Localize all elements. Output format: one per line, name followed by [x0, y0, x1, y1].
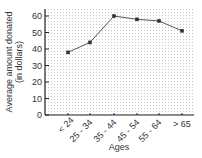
y-tick-label: 20: [32, 77, 42, 87]
y-tick-label: 10: [32, 94, 42, 104]
x-tick-label: > 65: [173, 119, 191, 129]
svg-text:Average amount donated: Average amount donated: [4, 12, 14, 113]
y-tick-label: 30: [32, 61, 42, 71]
x-tick-label: 45 - 54: [115, 117, 142, 144]
data-point: [157, 19, 161, 23]
svg-text:(in dollars): (in dollars): [14, 41, 24, 83]
line-chart: 0102030405060 < 2425 - 3435 - 4445 - 545…: [0, 0, 202, 158]
x-axis: < 2425 - 3435 - 4445 - 5455 - 64> 65: [45, 113, 194, 144]
y-tick-label: 50: [32, 28, 42, 38]
y-tick-label: 0: [37, 110, 42, 120]
data-point: [112, 14, 116, 18]
x-tick-label: 35 - 44: [92, 117, 119, 144]
y-axis-title: Average amount donated (in dollars): [4, 12, 24, 113]
y-tick-label: 60: [32, 11, 42, 21]
plot-area: [45, 9, 193, 115]
data-point: [88, 41, 92, 45]
x-axis-title: Ages: [109, 142, 130, 152]
data-point: [135, 18, 139, 22]
data-point: [180, 29, 184, 33]
data-point: [66, 51, 70, 55]
y-tick-label: 40: [32, 44, 42, 54]
x-tick-label: 55 - 64: [137, 117, 164, 144]
